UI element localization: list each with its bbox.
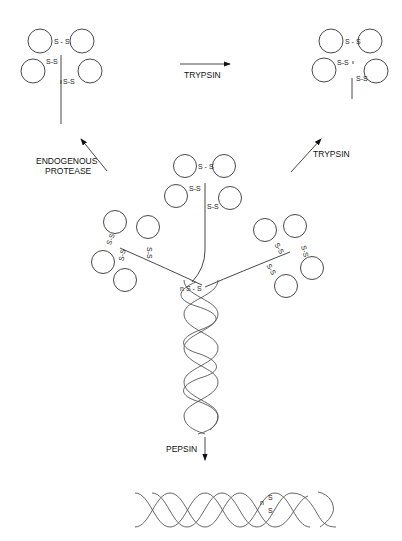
protease-label: PROTEASE bbox=[45, 166, 92, 176]
disulfide-label: S-S bbox=[337, 59, 349, 66]
disulfide-label: S-S bbox=[146, 247, 153, 259]
sulfur-label: S bbox=[268, 494, 273, 501]
disulfide-label: S - S bbox=[54, 38, 70, 45]
sulfur-label: S bbox=[268, 507, 273, 514]
disulfide-label: S - S bbox=[345, 38, 361, 45]
disulfide-label: S-S bbox=[46, 58, 58, 65]
disulfide-label: S-S bbox=[189, 185, 201, 192]
n-label: n bbox=[260, 499, 264, 506]
disulfide-label: S - S bbox=[198, 163, 214, 170]
disulfide-label: S-S bbox=[265, 263, 277, 277]
endogenous-fragment: S - S S-S S-S bbox=[21, 29, 102, 124]
disulfide-label: S-S bbox=[105, 232, 116, 246]
disulfide-label: S-S bbox=[207, 203, 219, 210]
trypsin-label-top: TRYPSIN bbox=[184, 70, 221, 80]
diagram-canvas: S - S S-S S-S TRYPSIN S - S S-S S-S ENDO… bbox=[0, 0, 402, 541]
disulfide-label: S-S bbox=[300, 245, 310, 258]
trypsin-label-right: TRYPSIN bbox=[313, 149, 350, 159]
disulfide-label: S-S bbox=[273, 242, 285, 256]
endogenous-label: ENDOGENOUS bbox=[36, 156, 98, 166]
disulfide-label: S-S bbox=[63, 78, 75, 85]
intact-molecule: S - S S-S S-S S-S S-S S-S S-S S-S S-S n … bbox=[92, 155, 324, 435]
pepsin-label: PEPSIN bbox=[166, 444, 197, 454]
pepsin-fragment: n S S bbox=[135, 492, 336, 527]
trypsin-fragment: S - S S-S S-S bbox=[312, 29, 388, 99]
disulfide-label: S-S bbox=[356, 75, 368, 82]
